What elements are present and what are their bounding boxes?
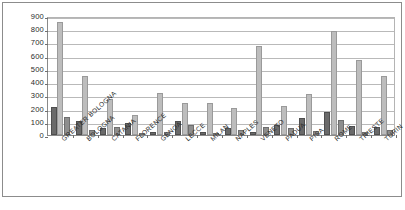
plot-area [47, 17, 395, 136]
bar-group [247, 18, 272, 135]
y-axis-tick-label: 400 [4, 79, 44, 87]
y-axis: 9008007006005004003002001000 [0, 17, 44, 136]
y-axis-tick-label: 500 [4, 66, 44, 74]
bar-series-2 [381, 76, 387, 136]
bar-series-2 [231, 108, 237, 135]
y-axis-tick-label: 300 [4, 92, 44, 100]
bar-series-1 [200, 132, 206, 135]
bar-chart: 9008007006005004003002001000 GREATER BOL… [0, 0, 405, 210]
bar-group [321, 18, 346, 135]
bar-series-1 [250, 132, 256, 135]
x-axis: GREATER BOLOGNABOLOGNACATANIAFLORENCEGEN… [47, 137, 395, 207]
y-axis-tick-label: 0 [4, 132, 44, 140]
bar-series-1 [324, 112, 330, 135]
bar-group [222, 18, 247, 135]
bar-series-1 [51, 107, 57, 135]
bar-group [297, 18, 322, 135]
y-axis-tick-label: 100 [4, 119, 44, 127]
bar-series-2 [331, 31, 337, 135]
bar-group [172, 18, 197, 135]
y-axis-tick-label: 600 [4, 53, 44, 61]
bar-series-2 [182, 103, 188, 135]
y-axis-tick-label: 900 [4, 13, 44, 21]
bar-group [48, 18, 73, 135]
bars-layer [48, 18, 394, 135]
y-axis-tick-label: 200 [4, 106, 44, 114]
bar-series-2 [82, 76, 88, 135]
y-axis-tick-label: 800 [4, 26, 44, 34]
bar-series-2 [356, 60, 362, 135]
bar-group [123, 18, 148, 135]
x-axis-tick-mark [396, 135, 397, 138]
bar-group [197, 18, 222, 135]
bar-group [272, 18, 297, 135]
bar-group [346, 18, 371, 135]
bar-series-2 [306, 94, 312, 135]
bar-group [371, 18, 396, 135]
bar-series-2 [57, 22, 63, 135]
y-axis-tick-label: 700 [4, 39, 44, 47]
bar-series-1 [150, 132, 156, 135]
bar-series-2 [207, 103, 213, 135]
